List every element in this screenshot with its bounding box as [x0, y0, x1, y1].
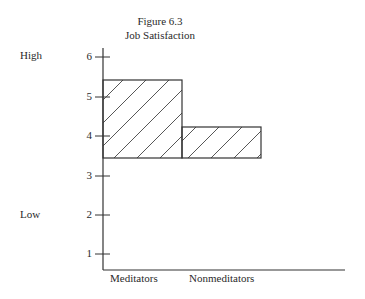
- x-category-nonmeditators: Nonmeditators: [189, 272, 254, 284]
- x-category-meditators: Meditators: [110, 272, 158, 284]
- bar-nonmeditators: [182, 127, 288, 164]
- chart-plot: [0, 0, 365, 299]
